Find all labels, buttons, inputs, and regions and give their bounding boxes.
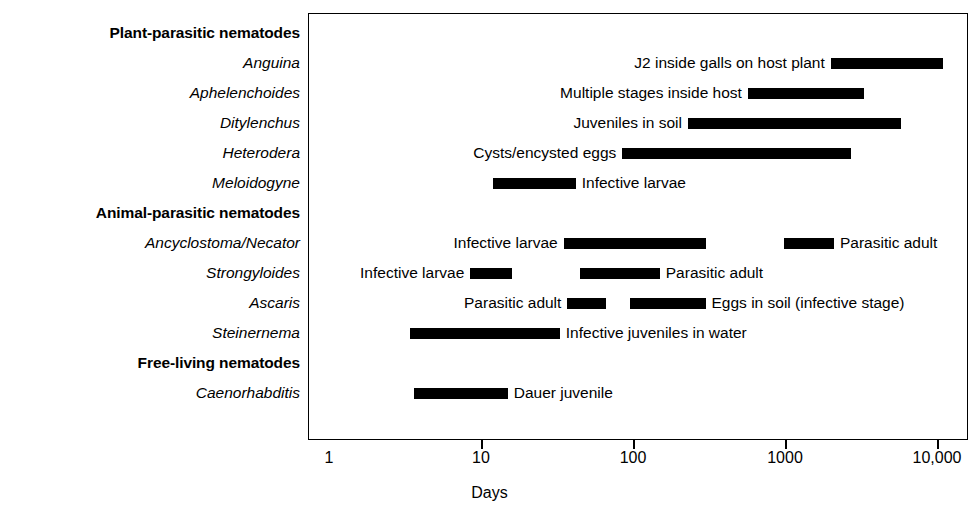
bar	[414, 388, 508, 399]
bar-annotation: Parasitic adult	[666, 265, 763, 281]
taxon-label: Ditylenchus	[0, 115, 300, 131]
x-axis: Days 110100100010,000	[0, 440, 979, 514]
taxon-label: Heterodera	[0, 145, 300, 161]
bar	[831, 58, 944, 69]
bar-annotation: Infective larvae	[360, 265, 464, 281]
bar-annotation: Cysts/encysted eggs	[473, 145, 616, 161]
bar	[748, 88, 864, 99]
taxon-label: Ascaris	[0, 295, 300, 311]
taxon-label: Steinernema	[0, 325, 300, 341]
bar	[493, 178, 576, 189]
x-tick-label: 1	[325, 450, 334, 466]
x-tick-label: 1000	[767, 450, 803, 466]
bar-annotation: Parasitic adult	[464, 295, 561, 311]
survival-time-chart: Plant-parasitic nematodesAnguinaAphelenc…	[0, 0, 979, 514]
row-label-column: Plant-parasitic nematodesAnguinaAphelenc…	[0, 0, 300, 514]
group-label: Free-living nematodes	[0, 355, 300, 371]
taxon-label: Strongyloides	[0, 265, 300, 281]
taxon-label: Aphelenchoides	[0, 85, 300, 101]
bar-annotation: Infective larvae	[582, 175, 686, 191]
bar	[622, 148, 850, 159]
bar-annotation: J2 inside galls on host plant	[634, 55, 824, 71]
bar-annotation: Multiple stages inside host	[560, 85, 742, 101]
group-label: Animal-parasitic nematodes	[0, 205, 300, 221]
bar-annotation: Infective juveniles in water	[566, 325, 747, 341]
taxon-label: Anguina	[0, 55, 300, 71]
x-tick	[937, 440, 939, 449]
bar-annotation: Juveniles in soil	[573, 115, 682, 131]
bar	[564, 238, 706, 249]
x-tick-label: 100	[620, 450, 647, 466]
bar	[567, 298, 605, 309]
taxon-label: Ancyclostoma/Necator	[0, 235, 300, 251]
group-label: Plant-parasitic nematodes	[0, 25, 300, 41]
x-axis-title: Days	[0, 484, 979, 502]
bar-annotation: Parasitic adult	[840, 235, 937, 251]
bar-annotation: Dauer juvenile	[514, 385, 613, 401]
bar	[580, 268, 659, 279]
taxon-label: Caenorhabditis	[0, 385, 300, 401]
x-tick	[633, 440, 635, 449]
bar	[784, 238, 834, 249]
plot-area: J2 inside galls on host plantMultiple st…	[308, 13, 968, 440]
taxon-label: Meloidogyne	[0, 175, 300, 191]
bar-annotation: Eggs in soil (infective stage)	[712, 295, 905, 311]
bar	[410, 328, 560, 339]
bar-annotation: Infective larvae	[453, 235, 557, 251]
bar	[470, 268, 512, 279]
bar	[630, 298, 706, 309]
x-tick	[481, 440, 483, 449]
x-tick	[785, 440, 787, 449]
bar	[688, 118, 901, 129]
x-tick-label: 10	[472, 450, 490, 466]
x-tick-label: 10,000	[913, 450, 962, 466]
